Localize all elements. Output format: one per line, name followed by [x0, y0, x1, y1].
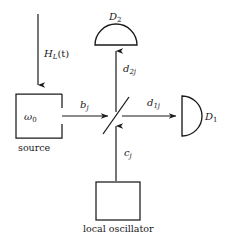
mode-c-sub: j: [130, 152, 132, 160]
source-box: [16, 94, 62, 138]
source-frequency-label: ω0: [24, 112, 37, 124]
mode-b-sub: j: [86, 104, 88, 112]
source-frequency-sub: 0: [32, 116, 36, 124]
mode-d1-label: d1j: [147, 98, 160, 110]
mode-d2-label: d2j: [123, 64, 136, 76]
mode-c-label: cj: [124, 148, 132, 160]
detector-2-sub: 2: [117, 16, 121, 24]
detector-2-shape: [95, 24, 137, 45]
drive-field-arg: (t): [57, 48, 69, 59]
mode-d1-sub: 1j: [153, 102, 160, 110]
detector-2-label: D2: [109, 12, 122, 24]
source-frequency-base: ω: [24, 111, 32, 122]
detector-1-base: D: [205, 111, 213, 122]
local-oscillator-box: [96, 182, 140, 220]
detector-1-sub: 1: [213, 116, 217, 124]
mode-d2-sub: 2j: [129, 68, 136, 76]
detector-1-shape: [182, 96, 202, 136]
drive-field-label: HL(t): [44, 49, 69, 61]
detector-2-base: D: [109, 11, 117, 22]
detector-1-label: D1: [205, 112, 218, 124]
drive-field-base: H: [44, 48, 53, 59]
figure-canvas: HL(t) ω0 source bj d1j d2j cj D2 D1 loca…: [0, 0, 235, 233]
local-oscillator-caption: local oscillator: [83, 224, 154, 233]
mode-b-label: bj: [80, 100, 89, 112]
source-caption: source: [18, 143, 50, 153]
